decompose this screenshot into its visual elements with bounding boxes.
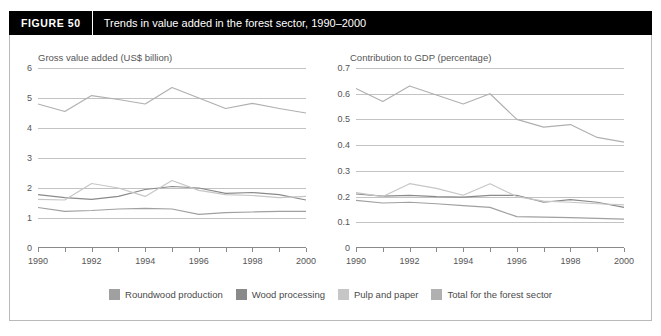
legend-item: Roundwood production (109, 289, 223, 300)
x-axis-tick (597, 248, 598, 252)
x-axis-tick (356, 248, 357, 252)
x-axis-tick (463, 248, 464, 252)
x-axis-tick (145, 248, 146, 252)
y-axis-tick-label: 3 (18, 153, 32, 163)
y-axis-tick-label: 2 (18, 183, 32, 193)
figure-header: FIGURE 50 Trends in value added in the f… (9, 11, 652, 35)
x-axis-tick (306, 248, 307, 252)
series-line (38, 208, 306, 215)
chart-legend: Roundwood productionWood processingPulp … (10, 289, 651, 300)
y-axis-tick-label: 5 (18, 93, 32, 103)
legend-swatch (236, 289, 247, 300)
x-axis-tick-label: 1992 (82, 256, 102, 266)
y-axis-tick-label: 0.2 (330, 192, 350, 202)
y-axis-tick-label: 0.1 (330, 217, 350, 227)
chart-right-title: Contribution to GDP (percentage) (350, 52, 491, 63)
y-axis-tick-label: 0.7 (330, 63, 350, 73)
x-axis-tick-label: 1990 (28, 256, 48, 266)
series-line (38, 88, 306, 114)
x-axis-tick (410, 248, 411, 252)
chart-gross-value-added: Gross value added (US$ billion) 01234561… (10, 35, 330, 285)
y-axis-tick-label: 4 (18, 123, 32, 133)
figure-number: FIGURE 50 (9, 17, 92, 29)
chart-contribution-to-gdp: Contribution to GDP (percentage) 00.10.2… (322, 35, 651, 285)
plot-area-right: 00.10.20.30.40.50.60.7199019921994199619… (356, 68, 624, 248)
x-axis-tick (38, 248, 39, 252)
figure-title: Trends in value added in the forest sect… (93, 17, 367, 29)
y-axis-tick-label: 6 (18, 63, 32, 73)
x-axis-tick-label: 2000 (296, 256, 316, 266)
x-axis-tick (279, 248, 280, 252)
x-axis-tick-label: 1994 (135, 256, 155, 266)
legend-swatch (338, 289, 349, 300)
x-axis-tick (172, 248, 173, 252)
figure-body: Gross value added (US$ billion) 01234561… (9, 35, 652, 321)
x-axis-tick (517, 248, 518, 252)
x-axis-tick (118, 248, 119, 252)
series-line (38, 181, 306, 201)
x-axis-tick-label: 1998 (560, 256, 580, 266)
x-axis-tick (436, 248, 437, 252)
x-axis-tick-label: 1996 (189, 256, 209, 266)
x-axis-tick (252, 248, 253, 252)
legend-label: Roundwood production (125, 289, 223, 300)
legend-label: Wood processing (252, 289, 325, 300)
x-axis-tick (490, 248, 491, 252)
y-axis-tick-label: 0.6 (330, 89, 350, 99)
x-axis-tick (570, 248, 571, 252)
figure-container: FIGURE 50 Trends in value added in the f… (0, 0, 661, 336)
x-axis-tick-label: 1990 (346, 256, 366, 266)
series-line (356, 184, 624, 205)
series-line (356, 86, 624, 142)
series-lines (38, 68, 306, 248)
x-axis-tick-label: 1996 (507, 256, 527, 266)
x-axis-tick (624, 248, 625, 252)
legend-label: Total for the forest sector (447, 289, 552, 300)
legend-swatch (109, 289, 120, 300)
x-axis-tick-label: 1998 (242, 256, 262, 266)
x-axis-tick (544, 248, 545, 252)
x-axis-tick (226, 248, 227, 252)
x-axis-tick (383, 248, 384, 252)
plot-area-left: 0123456199019921994199619982000 (38, 68, 306, 248)
series-line (356, 194, 624, 207)
y-axis-tick-label: 0 (330, 243, 350, 253)
x-axis-tick (199, 248, 200, 252)
y-axis-tick-label: 0.5 (330, 114, 350, 124)
x-axis-tick-label: 1992 (400, 256, 420, 266)
x-axis-tick (92, 248, 93, 252)
y-axis-tick-label: 0 (18, 243, 32, 253)
x-axis-tick (65, 248, 66, 252)
series-line (38, 187, 306, 201)
series-lines (356, 68, 624, 248)
x-axis-tick-label: 1994 (453, 256, 473, 266)
y-axis-tick-label: 0.4 (330, 140, 350, 150)
chart-left-title: Gross value added (US$ billion) (38, 52, 172, 63)
legend-swatch (431, 289, 442, 300)
y-axis-tick-label: 0.3 (330, 166, 350, 176)
x-axis-tick-label: 2000 (614, 256, 634, 266)
y-axis-tick-label: 1 (18, 213, 32, 223)
legend-item: Wood processing (236, 289, 325, 300)
legend-item: Total for the forest sector (431, 289, 552, 300)
legend-label: Pulp and paper (354, 289, 418, 300)
legend-item: Pulp and paper (338, 289, 418, 300)
